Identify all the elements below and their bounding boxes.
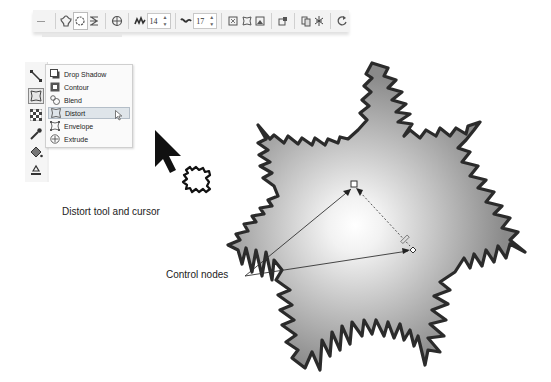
control-node-center[interactable]	[351, 181, 357, 187]
distorted-star-canvas	[0, 0, 551, 382]
control-nodes-caption: Control nodes	[166, 269, 228, 280]
distorted-star-shape	[228, 63, 525, 370]
